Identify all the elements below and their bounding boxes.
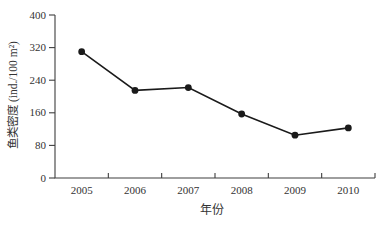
y-axis-ticks: 080160240320400 bbox=[30, 9, 56, 184]
x-tick-label: 2007 bbox=[177, 184, 200, 196]
data-point bbox=[132, 87, 139, 94]
data-point bbox=[78, 48, 85, 55]
x-tick-label: 2010 bbox=[337, 184, 360, 196]
x-tick-label: 2006 bbox=[124, 184, 147, 196]
y-tick-label: 400 bbox=[30, 9, 47, 21]
y-tick-label: 80 bbox=[35, 139, 47, 151]
y-tick-label: 240 bbox=[30, 74, 47, 86]
x-axis-ticks: 200520062007200820092010 bbox=[71, 173, 375, 196]
x-tick-label: 2008 bbox=[231, 184, 254, 196]
data-points bbox=[78, 48, 351, 138]
x-tick-label: 2005 bbox=[71, 184, 94, 196]
data-point bbox=[185, 84, 192, 91]
data-point bbox=[292, 132, 299, 139]
series-line bbox=[82, 52, 349, 136]
x-tick-label: 2009 bbox=[284, 184, 307, 196]
data-point bbox=[345, 124, 352, 131]
line-chart-figure: 080160240320400 200520062007200820092010… bbox=[0, 0, 385, 230]
chart-svg: 080160240320400 200520062007200820092010… bbox=[0, 0, 385, 230]
data-point bbox=[238, 111, 245, 118]
axis-spine bbox=[55, 15, 375, 178]
x-axis-title: 年份 bbox=[200, 203, 224, 217]
y-tick-label: 0 bbox=[41, 172, 47, 184]
y-tick-label: 160 bbox=[30, 106, 47, 118]
series-group bbox=[78, 48, 351, 138]
y-tick-label: 320 bbox=[30, 41, 47, 53]
y-axis-title: 鱼类密度 (ind./100 m²) bbox=[6, 41, 20, 149]
